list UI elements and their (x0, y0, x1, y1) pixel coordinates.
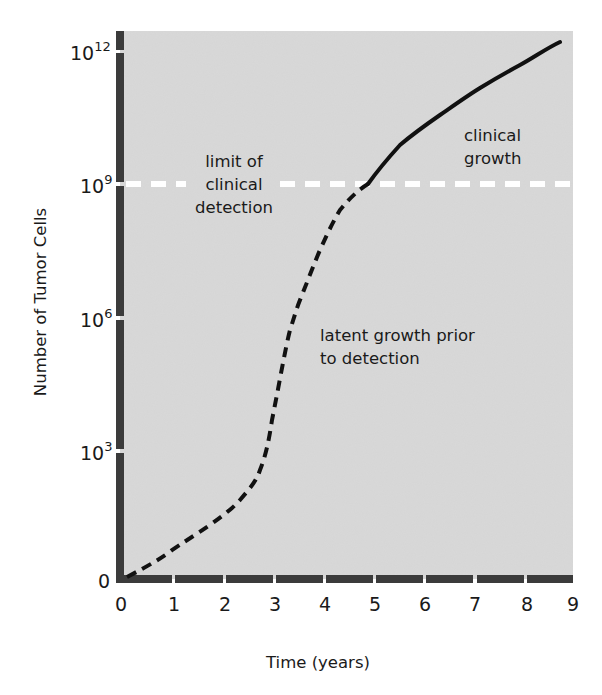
y-tick-labels: 1012 109 106 103 0 (70, 39, 112, 592)
y-axis-title: Number of Tumor Cells (31, 208, 50, 396)
y-axis (116, 31, 124, 583)
svg-text:detection: detection (195, 198, 273, 217)
y-tick-1e6: 106 (80, 306, 112, 331)
x-tick-2: 2 (219, 593, 231, 615)
annotation-detection-limit: limit of clinical detection (195, 152, 273, 217)
x-tick-9: 9 (567, 593, 579, 615)
tumor-growth-chart: 1012 109 106 103 0 0 1 2 3 4 5 6 7 8 9 l… (0, 0, 602, 695)
x-tick-labels: 0 1 2 3 4 5 6 7 8 9 (115, 593, 579, 615)
svg-text:clinical: clinical (205, 175, 262, 194)
svg-text:to detection: to detection (320, 349, 420, 368)
x-tick-7: 7 (469, 593, 481, 615)
y-tick-1e9: 109 (80, 172, 112, 197)
y-tick-1e12: 1012 (70, 39, 111, 64)
x-axis-title: Time (years) (265, 653, 370, 672)
svg-text:clinical: clinical (464, 126, 521, 145)
x-tick-1: 1 (168, 593, 180, 615)
svg-text:growth: growth (464, 149, 521, 168)
svg-text:latent growth prior: latent growth prior (320, 326, 475, 345)
x-tick-8: 8 (521, 593, 533, 615)
x-axis (116, 575, 573, 583)
plot-area (120, 31, 573, 579)
y-tick-0: 0 (98, 570, 110, 592)
x-tick-5: 5 (369, 593, 381, 615)
y-tick-1e3: 103 (80, 439, 112, 464)
x-tick-0: 0 (115, 593, 127, 615)
svg-text:limit of: limit of (205, 152, 264, 171)
x-tick-6: 6 (419, 593, 431, 615)
x-tick-3: 3 (269, 593, 281, 615)
x-tick-4: 4 (319, 593, 331, 615)
